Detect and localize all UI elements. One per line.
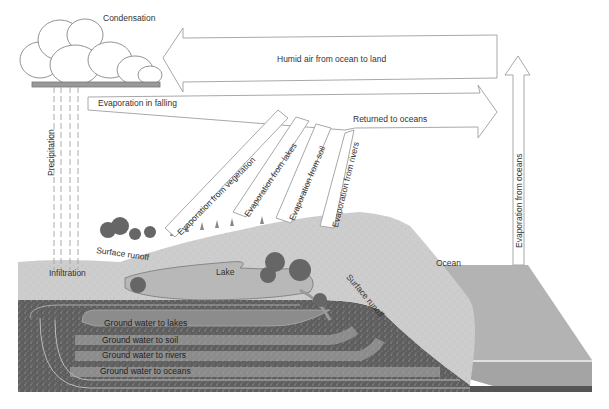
label-ground-water-to-lakes: Ground water to lakes — [104, 318, 187, 328]
cloud — [20, 19, 162, 87]
water-cycle-diagram: Condensation Humid air from ocean to lan… — [0, 0, 609, 409]
label-precipitation: Precipitation — [46, 129, 56, 176]
label-ground-water-to-oceans: Ground water to oceans — [100, 366, 191, 376]
precipitation-lines — [54, 87, 78, 270]
label-evaporation-from-oceans: Evaporation from oceans — [514, 154, 524, 249]
label-humid-air: Humid air from ocean to land — [277, 54, 386, 64]
label-evaporation-in-falling: Evaporation in falling — [98, 98, 177, 108]
label-condensation: Condensation — [103, 13, 155, 23]
label-returned-to-oceans: Returned to oceans — [353, 114, 427, 124]
label-ground-water-to-soil: Ground water to soil — [102, 335, 178, 345]
label-lake: Lake — [216, 267, 234, 277]
label-ocean: Ocean — [436, 258, 461, 268]
label-infiltration: Infiltration — [49, 268, 86, 278]
label-ground-water-to-rivers: Ground water to rivers — [102, 350, 186, 360]
